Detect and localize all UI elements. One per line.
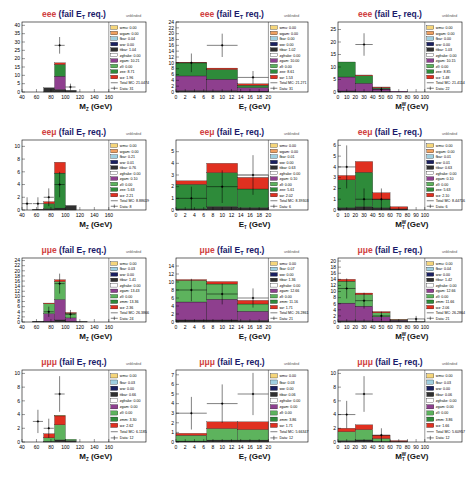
legend-entry: zee: 5.63 bbox=[427, 188, 451, 192]
svg-text:100: 100 bbox=[421, 212, 430, 218]
svg-text:ttbar: 1.04: ttbar: 1.04 bbox=[120, 48, 136, 52]
legend-entry: ttbar: 1.42 bbox=[427, 278, 452, 282]
svg-text:40: 40 bbox=[14, 22, 20, 28]
panel-title: eee (fail ET req.) bbox=[42, 9, 106, 20]
svg-text:20: 20 bbox=[353, 444, 359, 450]
stack-bar-zll bbox=[44, 438, 55, 441]
stack-bar-wz bbox=[176, 181, 207, 185]
svg-text:8: 8 bbox=[171, 65, 174, 71]
stack-bar-zgam bbox=[176, 76, 207, 91]
svg-text:0: 0 bbox=[337, 94, 340, 100]
legend-entry: ttbar: 0.06 bbox=[427, 392, 452, 397]
svg-text:20: 20 bbox=[266, 94, 272, 100]
svg-text:fbar: 0.01: fbar: 0.01 bbox=[436, 155, 451, 159]
svg-text:wmu: 0.00: wmu: 0.00 bbox=[436, 26, 453, 30]
svg-text:60: 60 bbox=[34, 444, 40, 450]
legend-entry: ttbar: 1.41 bbox=[111, 278, 136, 282]
svg-text:2: 2 bbox=[171, 311, 174, 317]
legend-entry: zmm: 13.36 bbox=[111, 300, 139, 304]
svg-text:wmu: 0.00: wmu: 0.00 bbox=[279, 144, 296, 148]
svg-text:8: 8 bbox=[17, 298, 20, 304]
svg-text:3: 3 bbox=[171, 172, 174, 178]
legend-entry: zmm: 11.66 bbox=[427, 300, 455, 304]
svg-text:2: 2 bbox=[171, 183, 174, 189]
svg-text:15: 15 bbox=[14, 64, 20, 70]
legend-entry: ww: 0.00 bbox=[427, 386, 450, 391]
legend-entry: zgam: 10.00 bbox=[270, 59, 299, 63]
histogram-panel: eee (fail ET req.)unblinded0246810121416… bbox=[150, 0, 312, 118]
stack-bar-ttbar bbox=[55, 208, 66, 210]
legend-entry: wmu: 0.00 bbox=[270, 374, 296, 379]
svg-text:zmm: 3.86: zmm: 3.86 bbox=[279, 418, 296, 422]
svg-text:unblinded: unblinded bbox=[442, 14, 457, 18]
svg-text:14: 14 bbox=[14, 283, 20, 289]
svg-text:16: 16 bbox=[247, 212, 253, 218]
stack-bar-wz bbox=[55, 162, 66, 173]
legend-entry: wz: 1.71 bbox=[270, 305, 292, 309]
svg-text:50: 50 bbox=[379, 94, 385, 100]
svg-text:8: 8 bbox=[171, 287, 174, 293]
stack-bar-zll bbox=[238, 430, 269, 441]
legend-entry: zee: 8.71 bbox=[111, 70, 135, 74]
svg-text:unblinded: unblinded bbox=[126, 14, 141, 18]
svg-text:140: 140 bbox=[90, 212, 99, 218]
svg-text:90: 90 bbox=[413, 324, 419, 330]
svg-text:fbar: 0.21: fbar: 0.21 bbox=[120, 155, 135, 159]
svg-text:zee: 8.85: zee: 8.85 bbox=[436, 70, 451, 74]
panel-title: μμμ (fail ET req.) bbox=[41, 357, 106, 368]
legend-entry: zll: 0.00 bbox=[111, 411, 132, 416]
histogram-svg: μμe (fail ET req.)unblinded0246810121416… bbox=[312, 236, 466, 348]
legend-entry: zgam: 0.00 bbox=[427, 405, 454, 410]
svg-text:4: 4 bbox=[17, 309, 20, 315]
legend-entry: Data: 21 bbox=[427, 317, 450, 321]
stack-bar-wz bbox=[355, 425, 372, 430]
svg-text:fbar: 0.03: fbar: 0.03 bbox=[279, 381, 294, 385]
svg-text:zgfrake: 0.00: zgfrake: 0.00 bbox=[279, 399, 300, 403]
svg-text:wz: 1.96: wz: 1.96 bbox=[120, 76, 133, 80]
legend-entry: zgfrake: 0.00 bbox=[270, 53, 300, 57]
svg-text:4: 4 bbox=[193, 444, 196, 450]
svg-text:10: 10 bbox=[344, 444, 350, 450]
svg-text:120: 120 bbox=[76, 444, 85, 450]
svg-text:10: 10 bbox=[330, 288, 336, 294]
legend-entry: zll: 0.00 bbox=[427, 182, 448, 186]
panel-title: eee (fail ET req.) bbox=[358, 9, 422, 20]
legend-entry: zgam: 12.66 bbox=[427, 289, 456, 293]
svg-text:80: 80 bbox=[48, 94, 54, 100]
svg-text:4: 4 bbox=[171, 303, 174, 309]
svg-text:10: 10 bbox=[14, 72, 20, 78]
svg-text:Data: 22: Data: 22 bbox=[436, 87, 450, 91]
svg-text:ttbar: 1.03: ttbar: 1.03 bbox=[436, 48, 452, 52]
legend-entry: zee: 5.63 bbox=[111, 188, 135, 192]
legend-entry: wz: 1.96 bbox=[111, 75, 133, 79]
svg-text:120: 120 bbox=[76, 324, 85, 330]
stack-bar-wz bbox=[44, 202, 55, 204]
stack-bar-wz bbox=[207, 68, 238, 69]
svg-text:2: 2 bbox=[333, 313, 336, 319]
svg-text:wz: 2.21: wz: 2.21 bbox=[120, 194, 133, 198]
svg-text:16: 16 bbox=[14, 278, 20, 284]
legend-entry: Data: 12 bbox=[270, 436, 293, 440]
svg-text:wz: 2.62: wz: 2.62 bbox=[120, 424, 133, 428]
legend-entry: ttbar: 0.63 bbox=[427, 166, 452, 170]
svg-text:zgfrake: 0.00: zgfrake: 0.00 bbox=[436, 54, 457, 58]
svg-text:20: 20 bbox=[266, 212, 272, 218]
svg-text:zll: 0.00: zll: 0.00 bbox=[436, 411, 448, 415]
legend-entry: wz: 2.21 bbox=[111, 193, 133, 197]
legend-entry: fbar: 0.04 bbox=[427, 267, 451, 271]
svg-text:14: 14 bbox=[168, 48, 174, 54]
legend-entry: zgam: 0.10 bbox=[111, 177, 138, 181]
svg-text:ttbar: 1.36: ttbar: 1.36 bbox=[279, 278, 295, 282]
svg-text:18: 18 bbox=[256, 444, 262, 450]
svg-text:zee: 5.63: zee: 5.63 bbox=[436, 188, 451, 192]
svg-text:160: 160 bbox=[105, 212, 114, 218]
legend-entry: ttbar: 0.76 bbox=[111, 166, 136, 170]
legend-entry: zgfrake: 0.00 bbox=[270, 399, 300, 404]
legend-entry: zgfrake: 0.00 bbox=[427, 171, 457, 175]
histogram-panel: eee (fail ET req.)unblinded0510152025303… bbox=[0, 0, 150, 118]
svg-text:Total MC: 21.0474: Total MC: 21.0474 bbox=[120, 81, 149, 85]
svg-text:Total MC: 26.2861: Total MC: 26.2861 bbox=[279, 311, 308, 315]
legend-entry: zee: 5.61 bbox=[270, 188, 294, 192]
legend-entry: wmu: 0.00 bbox=[270, 262, 296, 266]
svg-text:ttbar: 0.06: ttbar: 0.06 bbox=[279, 393, 295, 397]
